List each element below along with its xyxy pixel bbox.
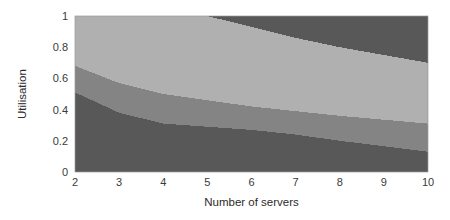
y-tick-label: 0	[62, 166, 68, 178]
y-tick-label: 0.6	[53, 72, 68, 84]
x-tick-label: 5	[204, 176, 210, 188]
x-tick-label: 4	[160, 176, 166, 188]
x-axis-title: Number of servers	[204, 196, 299, 208]
y-tick-label: 0.8	[53, 41, 68, 53]
x-tick-label: 2	[72, 176, 78, 188]
y-axis-title: Utilisation	[16, 69, 28, 119]
y-tick-label: 0.2	[53, 135, 68, 147]
x-tick-label: 7	[293, 176, 299, 188]
area-bands-group	[75, 16, 428, 172]
x-tick-label: 6	[248, 176, 254, 188]
x-tick-label: 8	[337, 176, 343, 188]
x-tick-label: 3	[116, 176, 122, 188]
y-tick-label: 1	[62, 10, 68, 22]
x-tick-label: 9	[381, 176, 387, 188]
chart-figure: 2345678910 00.20.40.60.81 Number of serv…	[0, 0, 450, 220]
y-tick-label: 0.4	[53, 104, 68, 116]
x-tick-label: 10	[422, 176, 434, 188]
